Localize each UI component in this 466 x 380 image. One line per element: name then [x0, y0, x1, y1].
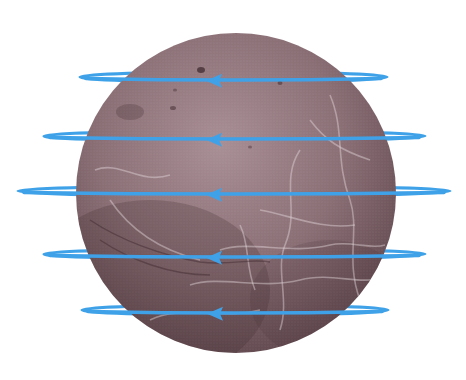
diagram-canvas [0, 0, 466, 380]
ring-1-front-line [86, 79, 381, 81]
sphere-rotation-diagram [0, 0, 466, 380]
ring-2-front-line [50, 138, 419, 140]
sphere [30, 30, 410, 380]
ring-3-front-line [24, 193, 444, 195]
sphere-texture [30, 30, 410, 380]
ring-5-front-line [88, 312, 382, 314]
ring-4-front-line [50, 256, 419, 258]
